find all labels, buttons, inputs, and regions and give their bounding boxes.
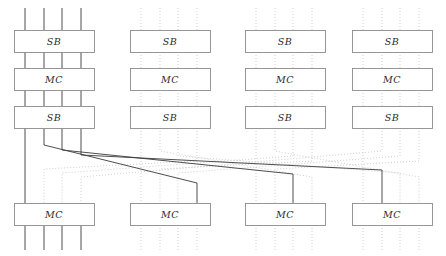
operation-box-c3r2-sb[interactable] bbox=[353, 107, 433, 129]
operation-box-c0r2-sb[interactable] bbox=[15, 107, 95, 129]
operation-box-c2r0-sb[interactable] bbox=[246, 31, 326, 53]
diagram-canvas: SBMCSBMCSBMCSBMCSBMCSBMCSBMCSBMC bbox=[0, 0, 446, 256]
crossing-solid-route-1 bbox=[44, 128, 197, 203]
operation-box-c2r2-sb[interactable] bbox=[246, 107, 326, 129]
operation-box-c3r3-mc[interactable] bbox=[353, 204, 433, 226]
crossing-dotted-route-3 bbox=[44, 128, 197, 203]
operation-box-c1r1-mc[interactable] bbox=[131, 69, 211, 91]
operation-box-c2r3-mc[interactable] bbox=[246, 204, 326, 226]
operation-box-c0r0-sb[interactable] bbox=[15, 31, 95, 53]
operation-box-c0r3-mc[interactable] bbox=[15, 204, 95, 226]
operation-box-c2r1-mc[interactable] bbox=[246, 69, 326, 91]
operation-box-c3r0-sb[interactable] bbox=[353, 31, 433, 53]
operation-box-c3r1-mc[interactable] bbox=[353, 69, 433, 91]
box-group bbox=[15, 31, 433, 226]
crossing-solid-route-2 bbox=[62, 128, 293, 203]
crossing-network-group bbox=[25, 128, 419, 203]
operation-box-c1r3-mc[interactable] bbox=[131, 204, 211, 226]
operation-box-c1r2-sb[interactable] bbox=[131, 107, 211, 129]
wire-network bbox=[0, 0, 446, 256]
operation-box-c0r1-mc[interactable] bbox=[15, 69, 95, 91]
crossing-dotted-route-6 bbox=[62, 128, 293, 203]
operation-box-c1r0-sb[interactable] bbox=[131, 31, 211, 53]
